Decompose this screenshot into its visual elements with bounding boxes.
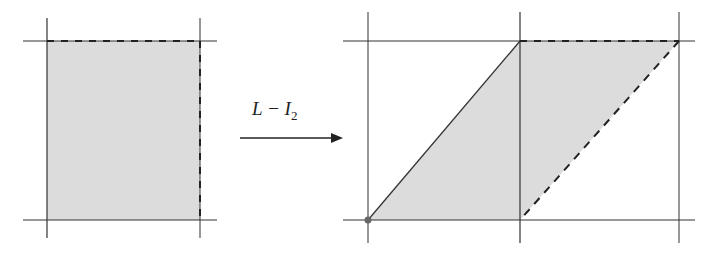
diagram-canvas [0,0,712,257]
transform-arrow [240,133,343,143]
arrow-head-icon [331,133,343,143]
parallelogram-fill [368,41,679,220]
right-figure [343,12,695,243]
origin-dot [365,217,372,224]
unit-square-fill [47,41,200,220]
transform-label-subscript: 2 [291,108,298,123]
transform-label-main: L − I [252,98,291,119]
transform-label: L − I2 [252,98,297,124]
left-figure [23,18,217,238]
